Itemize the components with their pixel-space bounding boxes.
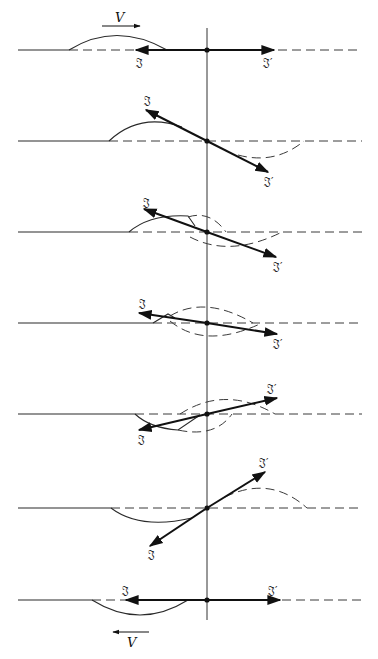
label-J: 𝔍 (142, 196, 150, 209)
label-J: 𝔍 (121, 584, 129, 597)
vector-J (144, 209, 207, 232)
panel-3: 𝔍 𝔍′ (18, 196, 362, 273)
label-J-prime: 𝔍′ (262, 56, 273, 69)
panel-1: 𝔍 𝔍′ V (18, 10, 362, 69)
junction-point (204, 229, 209, 234)
velocity-label: V (127, 635, 138, 650)
junction-point (204, 505, 209, 510)
junction-point (204, 597, 209, 602)
vector-J (150, 508, 207, 546)
panel-2: 𝔍 𝔍′ (18, 94, 362, 188)
upper-ghost (170, 307, 253, 323)
panel-7: 𝔍 𝔍′ V (18, 584, 362, 650)
junction-point (204, 47, 209, 52)
junction-point (204, 138, 209, 143)
junction-point (204, 320, 209, 325)
label-J: 𝔍 (138, 297, 146, 310)
panel-6: 𝔍 𝔍′ (18, 456, 362, 561)
vector-J (146, 110, 207, 141)
vector-J-prime (207, 232, 276, 257)
vector-J-prime (207, 141, 268, 172)
label-J-prime: 𝔍′ (266, 382, 277, 395)
pulse (111, 508, 192, 522)
vector-J-prime (207, 398, 277, 414)
vector-J (139, 414, 207, 430)
label-J: 𝔍 (135, 56, 143, 69)
vector-J-prime (207, 323, 277, 334)
reflection-diagram: 𝔍 𝔍′ V 𝔍 𝔍′ 𝔍 𝔍′ (0, 0, 378, 659)
label-J-prime: 𝔍′ (272, 337, 283, 350)
label-J: 𝔍 (147, 548, 155, 561)
label-J-prime: 𝔍′ (258, 456, 269, 469)
junction-point (204, 411, 209, 416)
label-J: 𝔍 (143, 94, 151, 107)
reflected-pulse (225, 488, 307, 508)
panel-5: 𝔍 𝔍′ (18, 382, 362, 446)
reflected-pulse (238, 141, 304, 158)
label-J: 𝔍 (137, 433, 145, 446)
vector-J-prime (207, 472, 265, 508)
lower-ghost (178, 414, 232, 432)
panel-4: 𝔍 𝔍′ (18, 297, 362, 350)
velocity-label: V (115, 10, 126, 25)
pulse (69, 36, 167, 51)
label-J-prime: 𝔍′ (263, 175, 274, 188)
label-J-prime: 𝔍′ (267, 584, 278, 597)
pulse (135, 414, 200, 430)
pulse (109, 122, 182, 141)
pulse (92, 600, 188, 615)
label-J-prime: 𝔍′ (272, 260, 283, 273)
reflected-pulse (190, 232, 282, 246)
